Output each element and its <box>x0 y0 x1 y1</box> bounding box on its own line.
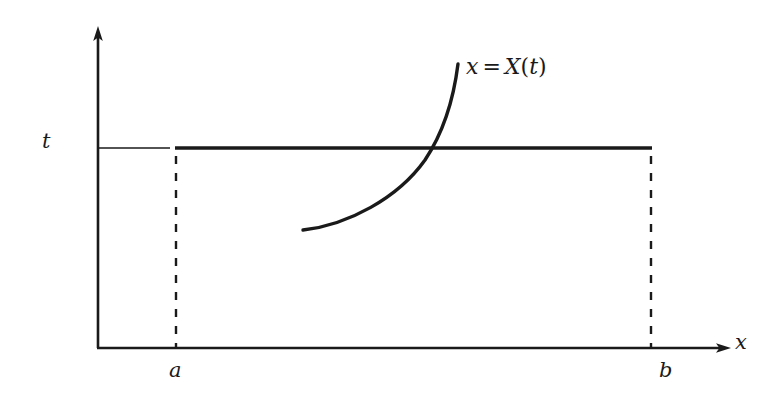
curve-label-function-name: X <box>505 54 521 79</box>
curve-label-lhs: x <box>466 54 478 79</box>
x-tick-label-b: b <box>659 360 672 381</box>
curve-label-paren-open: ( <box>521 54 530 79</box>
x-axis-label: x <box>735 332 747 353</box>
x-tick-label-a: a <box>169 360 182 381</box>
x-axis-group <box>97 343 731 353</box>
figure-drawing <box>0 0 780 399</box>
curve-label-equals: = <box>482 54 500 79</box>
curve-equation-label: x=X(t) <box>466 56 547 78</box>
t-axis-group <box>93 26 103 348</box>
curve-label-paren-close: ) <box>538 54 547 79</box>
figure-canvas: t a b x x=X(t) <box>0 0 780 399</box>
t-level-label: t <box>42 131 50 152</box>
curve-label-argument: t <box>529 54 538 79</box>
